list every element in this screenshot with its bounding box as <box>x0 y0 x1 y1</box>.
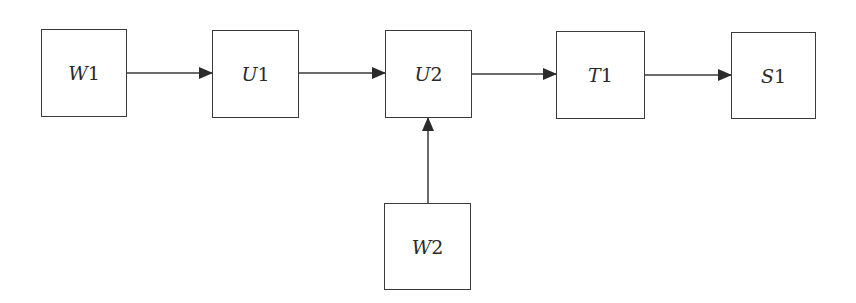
node-w2: W2 <box>384 203 471 290</box>
node-u2-index: 2 <box>430 63 442 85</box>
node-t1: T1 <box>556 31 645 119</box>
node-t1-variable: T <box>588 64 601 86</box>
node-u1-variable: U <box>241 63 257 85</box>
node-u2: U2 <box>385 30 472 118</box>
node-s1-index: 1 <box>774 65 786 87</box>
node-w1-index: 1 <box>88 62 100 84</box>
node-u1: U1 <box>212 30 299 118</box>
node-u1-index: 1 <box>257 63 269 85</box>
node-w2-variable: W <box>412 236 432 258</box>
node-w1-variable: W <box>68 62 88 84</box>
node-s1: S1 <box>731 32 816 119</box>
node-w1: W1 <box>41 29 127 117</box>
node-u2-variable: U <box>414 63 430 85</box>
flow-diagram: W1 U1 U2 T1 S1 W2 <box>0 0 856 303</box>
node-s1-variable: S <box>761 65 774 87</box>
node-w2-index: 2 <box>431 236 443 258</box>
node-t1-index: 1 <box>601 64 613 86</box>
